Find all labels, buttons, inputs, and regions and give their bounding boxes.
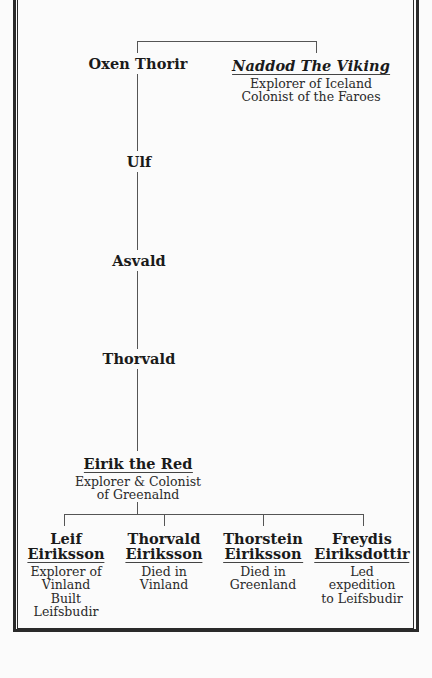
person-name: Thorvald Eiriksson (125, 531, 202, 563)
description-line: of Greenalnd (75, 488, 201, 501)
person-name: Ulf (127, 154, 152, 169)
person-thorvald: Thorvald (103, 351, 176, 366)
person-thorvald-eiriksson: Thorvald Eiriksson Died in Vinland (125, 531, 202, 592)
description-line: Died in (125, 565, 202, 578)
person-ulf: Ulf (127, 154, 152, 169)
person-name: Eirik the Red (83, 456, 192, 473)
name-line: Eiriksdottir (314, 546, 409, 561)
children-bracket-leif (64, 514, 65, 526)
person-name: Naddod The Viking (232, 58, 390, 75)
person-naddod-the-viking: Naddod The Viking Explorer of Iceland Co… (232, 56, 390, 104)
description-line: Explorer of (27, 565, 104, 578)
name-line: Thorvald (125, 531, 202, 546)
description-line: to Leifsbudir (314, 592, 409, 605)
description-line: expedition (314, 578, 409, 591)
person-freydis-eiriksdottir: Freydis Eiriksdottir Led expedition to L… (314, 531, 409, 605)
person-description: Died in Vinland (125, 565, 202, 592)
name-line: Eiriksson (125, 546, 202, 561)
person-description: Explorer of Iceland Colonist of the Faro… (232, 77, 390, 104)
marriage-bracket-horizontal (137, 41, 316, 42)
person-description: Explorer & Colonist of Greenalnd (75, 475, 201, 502)
description-line: Vinland (27, 578, 104, 591)
person-eirik-the-red: Eirik the Red Explorer & Colonist of Gre… (75, 454, 201, 502)
person-name: Oxen Thorir (89, 56, 188, 71)
description-line: Explorer of Iceland (232, 77, 390, 90)
descent-line-ulf-asvald (137, 172, 138, 250)
description-line: Leifsbudir (27, 605, 104, 618)
person-description: Died in Greenland (223, 565, 303, 592)
children-bracket-thorvald (164, 514, 165, 526)
description-line: Vinland (125, 578, 202, 591)
descent-line-asvald-thorvald (137, 271, 138, 349)
name-line: Eiriksson (223, 546, 303, 561)
person-thorstein-eiriksson: Thorstein Eiriksson Died in Greenland (223, 531, 303, 592)
name-line: Freydis (314, 531, 409, 546)
children-bracket-freydis (363, 514, 364, 526)
person-leif-eiriksson: Leif Eiriksson Explorer of Vinland Built… (27, 531, 104, 618)
description-line: Colonist of the Faroes (232, 90, 390, 103)
person-name: Asvald (112, 253, 165, 268)
name-line: Leif (27, 531, 104, 546)
name-line: Thorstein (223, 531, 303, 546)
person-description: Led expedition to Leifsbudir (314, 565, 409, 605)
children-bracket-thorstein (263, 514, 264, 526)
descent-line-oxen-ulf (137, 74, 138, 151)
marriage-bracket-right (316, 41, 317, 53)
children-bracket-horizontal (64, 514, 363, 515)
description-line: Explorer & Colonist (75, 475, 201, 488)
description-line: Greenland (223, 578, 303, 591)
marriage-bracket-left (137, 41, 138, 53)
person-name: Freydis Eiriksdottir (314, 531, 409, 563)
person-asvald: Asvald (112, 253, 165, 268)
person-oxen-thorir: Oxen Thorir (89, 56, 188, 71)
person-name: Leif Eiriksson (27, 531, 104, 563)
description-line: Died in (223, 565, 303, 578)
description-line: Built (27, 592, 104, 605)
descent-line-thorvald-eirik (137, 369, 138, 451)
description-line: Led (314, 565, 409, 578)
person-name: Thorvald (103, 351, 176, 366)
name-line: Eiriksson (27, 546, 104, 561)
person-name: Thorstein Eiriksson (223, 531, 303, 563)
person-description: Explorer of Vinland Built Leifsbudir (27, 565, 104, 618)
